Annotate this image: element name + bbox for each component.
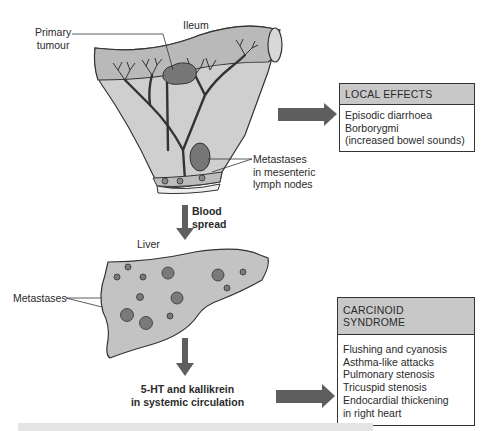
carcinoid-syndrome-box: CARCINOID SYNDROME Flushing and cyanosis… bbox=[337, 297, 475, 426]
metastases-lymph-line3: lymph nodes bbox=[253, 178, 315, 191]
metastases-lymph-line1: Metastases bbox=[253, 153, 315, 166]
circulation-line1: 5-HT and kallikrein bbox=[130, 383, 245, 396]
metastases-lymph-label: Metastases in mesenteric lymph nodes bbox=[253, 153, 315, 191]
local-effect-item: Borborygmi bbox=[345, 122, 469, 135]
local-effects-box: LOCAL EFFECTS Episodic diarrhoea Borbory… bbox=[339, 83, 475, 152]
primary-tumour-label: Primary tumour bbox=[35, 26, 71, 51]
syndrome-item: in right heart bbox=[343, 407, 469, 420]
blood-spread-line1: Blood bbox=[192, 205, 226, 218]
syndrome-item: Asthma-like attacks bbox=[343, 356, 469, 369]
primary-tumour-label-line1: Primary bbox=[35, 26, 71, 39]
carcinoid-syndrome-list: Flushing and cyanosis Asthma-like attack… bbox=[338, 335, 474, 425]
footer-bar bbox=[18, 423, 373, 431]
circulation-line2: in systemic circulation bbox=[130, 396, 245, 409]
metastases-lymph-line2: in mesenteric bbox=[253, 166, 315, 179]
local-effect-item: (increased bowel sounds) bbox=[345, 134, 469, 147]
ileum-label: Ileum bbox=[183, 19, 209, 32]
circulation-label: 5-HT and kallikrein in systemic circulat… bbox=[130, 383, 245, 408]
local-effects-list: Episodic diarrhoea Borborygmi (increased… bbox=[340, 105, 474, 151]
liver-label: Liver bbox=[137, 238, 160, 251]
syndrome-item: Pulmonary stenosis bbox=[343, 368, 469, 381]
syndrome-item: Endocardial thickening bbox=[343, 394, 469, 407]
syndrome-item: Tricuspid stenosis bbox=[343, 381, 469, 394]
local-effect-item: Episodic diarrhoea bbox=[345, 109, 469, 122]
primary-tumour-label-line2: tumour bbox=[35, 39, 71, 52]
metastases-liver-label: Metastases bbox=[13, 292, 67, 305]
syndrome-item: Flushing and cyanosis bbox=[343, 343, 469, 356]
carcinoid-syndrome-title: CARCINOID SYNDROME bbox=[338, 298, 474, 335]
blood-spread-label: Blood spread bbox=[192, 205, 226, 230]
local-effects-title: LOCAL EFFECTS bbox=[340, 84, 474, 105]
blood-spread-line2: spread bbox=[192, 218, 226, 231]
